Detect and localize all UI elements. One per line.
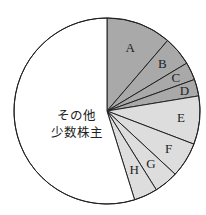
slice-label-g: G xyxy=(146,156,155,171)
slice-label-a: A xyxy=(126,40,136,55)
other-label-line-2: 少数株主 xyxy=(51,125,103,140)
slice-label-b: B xyxy=(158,56,167,71)
pie-slices xyxy=(14,18,200,204)
pie-chart: ABCDEFGH その他 少数株主 xyxy=(0,0,206,215)
other-label-line-1: その他 xyxy=(57,108,96,123)
slice-label-e: E xyxy=(177,110,185,125)
slice-label-h: H xyxy=(129,162,138,177)
slice-label-f: F xyxy=(165,141,172,156)
slice-label-d: D xyxy=(180,83,189,98)
